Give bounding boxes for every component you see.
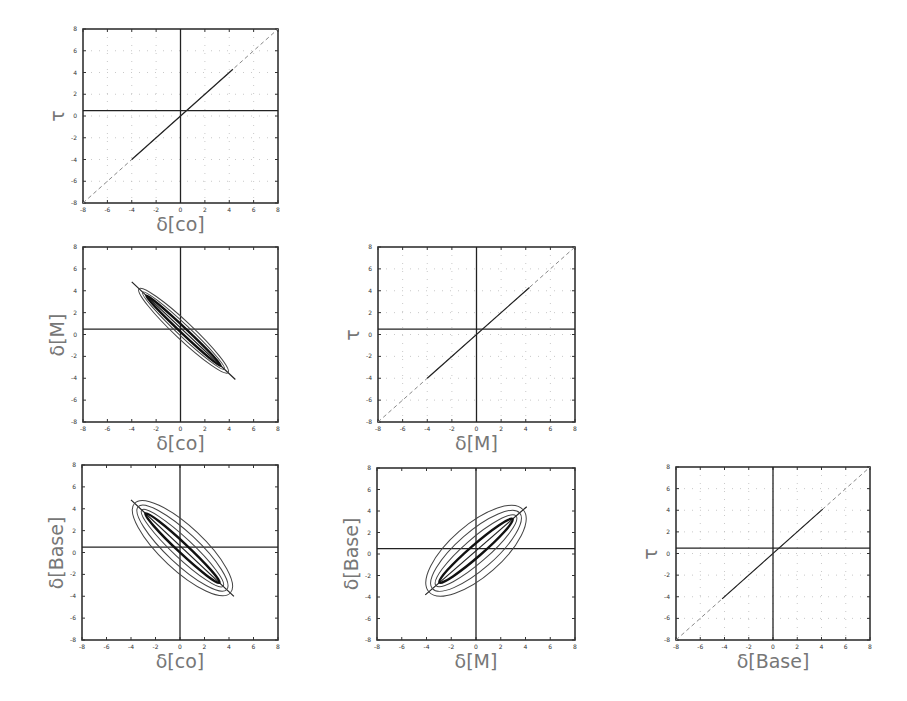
svg-text:0: 0 [367, 550, 371, 557]
svg-text:-6: -6 [104, 206, 110, 213]
svg-text:6: 6 [252, 206, 256, 213]
y-axis-label: δ[Base] [45, 516, 67, 589]
svg-text:-4: -4 [424, 425, 430, 432]
svg-text:-8: -8 [71, 199, 77, 206]
svg-text:-2: -2 [664, 571, 670, 578]
svg-text:6: 6 [666, 485, 670, 492]
reference-lines [83, 247, 278, 422]
svg-text:-6: -6 [71, 396, 77, 403]
svg-text:0: 0 [475, 425, 479, 432]
y-axis-label: τ [639, 548, 661, 559]
svg-text:8: 8 [573, 643, 577, 650]
svg-text:2: 2 [203, 206, 207, 213]
svg-text:-2: -2 [70, 570, 76, 577]
svg-text:8: 8 [276, 643, 280, 650]
svg-text:-2: -2 [71, 352, 77, 359]
svg-text:6: 6 [844, 643, 848, 650]
svg-text:-2: -2 [449, 425, 455, 432]
svg-text:6: 6 [252, 425, 256, 432]
svg-text:2: 2 [795, 643, 799, 650]
svg-text:-6: -6 [104, 643, 110, 650]
svg-text:-8: -8 [366, 418, 372, 425]
svg-text:-2: -2 [153, 206, 159, 213]
svg-text:-4: -4 [366, 374, 372, 381]
svg-text:-2: -2 [71, 134, 77, 141]
svg-text:4: 4 [368, 287, 372, 294]
svg-text:-8: -8 [375, 425, 381, 432]
svg-text:0: 0 [179, 425, 183, 432]
svg-text:4: 4 [227, 206, 231, 213]
svg-text:-8: -8 [70, 636, 76, 643]
svg-text:-4: -4 [71, 156, 77, 163]
svg-text:0: 0 [178, 643, 182, 650]
y-axis-label: δ[M] [46, 313, 68, 356]
contour-set [132, 282, 236, 380]
svg-text:0: 0 [666, 550, 670, 557]
svg-text:2: 2 [73, 309, 77, 316]
svg-text:-4: -4 [129, 206, 135, 213]
svg-text:2: 2 [72, 527, 76, 534]
svg-text:-4: -4 [128, 643, 134, 650]
subplot-p6: -8-8-6-6-4-4-2-20022446688δ[Base]τ [676, 467, 870, 640]
svg-text:2: 2 [73, 90, 77, 97]
tick-labels: -8-8-6-6-4-4-2-20022446688 [664, 463, 872, 650]
svg-text:-8: -8 [365, 636, 371, 643]
subplot-p5: -8-8-6-6-4-4-2-20022446688δ[M]δ[Base] [377, 468, 575, 640]
svg-text:-6: -6 [366, 396, 372, 403]
svg-text:4: 4 [367, 507, 371, 514]
y-axis-label: τ [46, 110, 68, 121]
svg-text:4: 4 [73, 287, 77, 294]
svg-text:4: 4 [820, 643, 824, 650]
svg-text:-6: -6 [399, 643, 405, 650]
svg-text:8: 8 [72, 461, 76, 468]
svg-text:6: 6 [73, 265, 77, 272]
svg-text:0: 0 [179, 206, 183, 213]
svg-text:6: 6 [367, 486, 371, 493]
svg-text:-2: -2 [366, 352, 372, 359]
svg-text:2: 2 [499, 643, 503, 650]
subplot-p4: -8-8-6-6-4-4-2-20022446688δ[co]δ[Base] [82, 465, 278, 640]
svg-text:4: 4 [524, 643, 528, 650]
svg-text:-4: -4 [70, 592, 76, 599]
svg-text:0: 0 [771, 643, 775, 650]
svg-text:6: 6 [72, 483, 76, 490]
svg-text:8: 8 [73, 25, 77, 32]
subplot-p1: -8-8-6-6-4-4-2-20022446688δ[co]τ [83, 29, 278, 203]
subplot-p3: -8-8-6-6-4-4-2-20022446688δ[M]τ [378, 247, 575, 422]
tick-labels: -8-8-6-6-4-4-2-20022446688 [366, 243, 577, 432]
svg-text:6: 6 [548, 425, 552, 432]
svg-text:-6: -6 [697, 643, 703, 650]
subplot-p2: -8-8-6-6-4-4-2-20022446688δ[co]δ[M] [83, 247, 278, 422]
svg-text:2: 2 [367, 529, 371, 536]
svg-text:-6: -6 [664, 614, 670, 621]
plot-area: -8-8-6-6-4-4-2-20022446688 [83, 29, 278, 203]
svg-text:2: 2 [203, 425, 207, 432]
plot-area: -8-8-6-6-4-4-2-20022446688 [377, 468, 575, 640]
svg-text:-6: -6 [104, 425, 110, 432]
svg-text:-2: -2 [746, 643, 752, 650]
x-axis-label: δ[M] [455, 650, 498, 672]
svg-text:8: 8 [368, 243, 372, 250]
y-axis-label: δ[Base] [340, 518, 362, 591]
svg-text:-4: -4 [71, 374, 77, 381]
svg-text:-8: -8 [664, 636, 670, 643]
plot-area: -8-8-6-6-4-4-2-20022446688 [83, 247, 278, 422]
plot-area: -8-8-6-6-4-4-2-20022446688 [676, 467, 870, 640]
plot-area: -8-8-6-6-4-4-2-20022446688 [82, 465, 278, 640]
svg-text:0: 0 [474, 643, 478, 650]
svg-text:-4: -4 [722, 643, 728, 650]
svg-text:8: 8 [367, 464, 371, 471]
svg-text:-8: -8 [71, 418, 77, 425]
svg-text:-6: -6 [365, 615, 371, 622]
svg-text:8: 8 [276, 425, 280, 432]
x-axis-label: δ[co] [156, 213, 205, 235]
x-axis-label: δ[M] [455, 432, 498, 454]
svg-text:6: 6 [548, 643, 552, 650]
svg-text:0: 0 [73, 331, 77, 338]
tick-labels: -8-8-6-6-4-4-2-20022446688 [365, 464, 577, 650]
svg-text:-8: -8 [79, 643, 85, 650]
trace-line [132, 69, 233, 159]
svg-text:-2: -2 [153, 425, 159, 432]
svg-text:-2: -2 [153, 643, 159, 650]
svg-text:4: 4 [227, 425, 231, 432]
